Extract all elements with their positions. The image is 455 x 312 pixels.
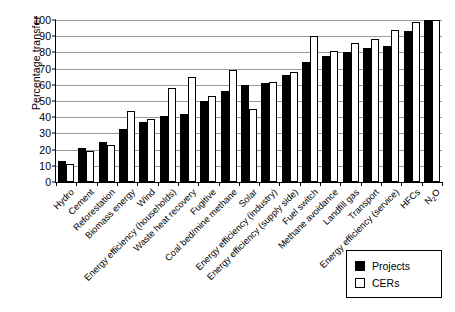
bar-group [361,20,381,182]
bar-cers [412,22,420,182]
bar-cers [208,96,216,182]
y-tick-label: 0 [45,176,51,188]
bar-group [279,20,299,182]
bar-projects [200,101,208,182]
bar-projects [139,122,147,182]
y-tick-label: 90 [39,30,51,42]
bar-cers [107,145,115,182]
bar-projects [322,56,330,182]
bar-projects [78,148,86,182]
x-tick-mark [340,182,341,186]
x-tick-mark [442,182,443,186]
bar-group [198,20,218,182]
x-tick-mark [279,182,280,186]
bar-cers [249,109,257,182]
bar-projects [302,62,310,182]
bar-projects [424,20,432,182]
x-tick-label: HFCs [398,187,422,211]
x-tick-mark [320,182,321,186]
bar-group [178,20,198,182]
legend-item-cers: CERs [355,274,433,291]
bar-group [137,20,157,182]
x-tick-mark [401,182,402,186]
y-tick-label: 100 [33,14,51,26]
y-tick-label: 70 [39,63,51,75]
legend-label-projects: Projects [372,260,410,272]
x-tick-mark [97,182,98,186]
x-tick-mark [198,182,199,186]
x-tick-mark [422,182,423,186]
bar-group [401,20,421,182]
x-tick-mark [381,182,382,186]
bar-group [320,20,340,182]
bar-cers [310,36,318,182]
bar-projects [261,83,269,182]
bar-projects [343,52,351,182]
bar-cers [188,77,196,182]
bar-projects [58,161,66,182]
x-tick-mark [117,182,118,186]
legend-swatch-projects [355,261,365,271]
bar-cers [168,88,176,182]
x-tick-label: N2O [422,187,441,206]
bar-cers [66,164,74,182]
bar-projects [363,48,371,182]
bar-projects [383,46,391,182]
bar-cers [391,30,399,182]
y-tick-label: 20 [39,144,51,156]
bar-group [300,20,320,182]
x-tick-mark [76,182,77,186]
x-tick-mark [137,182,138,186]
bar-group [76,20,96,182]
bar-group [117,20,137,182]
y-tick-label: 60 [39,79,51,91]
legend-item-projects: Projects [355,257,433,274]
bar-cers [127,111,135,182]
bar-projects [119,129,127,182]
bar-projects [160,116,168,182]
bar-cers [351,43,359,182]
bar-groups [56,20,442,182]
y-tick-label: 80 [39,46,51,58]
bar-projects [241,85,249,182]
y-tick-label: 50 [39,95,51,107]
x-tick-mark [361,182,362,186]
x-tick-mark [178,182,179,186]
bar-group [158,20,178,182]
bar-group [340,20,360,182]
bar-group [422,20,442,182]
x-tick-mark [239,182,240,186]
chart-legend: Projects CERs [346,250,442,298]
bar-cers [330,51,338,182]
y-tick-label: 30 [39,127,51,139]
legend-label-cers: CERs [372,277,399,289]
y-tick-label: 10 [39,160,51,172]
bar-group [381,20,401,182]
plot-area: 0102030405060708090100 [55,20,442,183]
bar-projects [180,114,188,182]
bar-group [97,20,117,182]
bar-cers [269,82,277,182]
bar-cers [147,119,155,182]
bar-group [219,20,239,182]
bar-group [239,20,259,182]
bar-projects [282,75,290,182]
x-tick-mark [300,182,301,186]
chart-figure: Percentage transfer 01020304050607080901… [0,0,455,312]
bar-cers [229,70,237,182]
bar-cers [432,20,440,182]
bar-group [56,20,76,182]
bar-cers [86,151,94,182]
x-tick-mark [158,182,159,186]
legend-swatch-cers [355,278,365,288]
x-tick-mark [56,182,57,186]
x-tick-mark [219,182,220,186]
bar-cers [290,72,298,182]
bar-cers [371,39,379,182]
x-tick-mark [259,182,260,186]
y-tick-label: 40 [39,111,51,123]
bar-group [259,20,279,182]
bar-projects [221,91,229,182]
bar-projects [404,31,412,182]
bar-projects [99,142,107,183]
